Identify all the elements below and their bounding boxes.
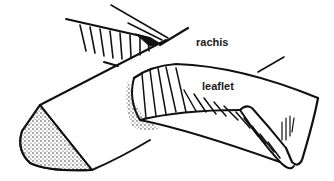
rachis-leaflet-drawing: [0, 0, 334, 181]
rachis-stem: [20, 5, 188, 170]
leaflet-shape: [126, 57, 318, 168]
label-rachis: rachis: [196, 37, 228, 48]
label-leaflet: leaflet: [202, 81, 234, 92]
